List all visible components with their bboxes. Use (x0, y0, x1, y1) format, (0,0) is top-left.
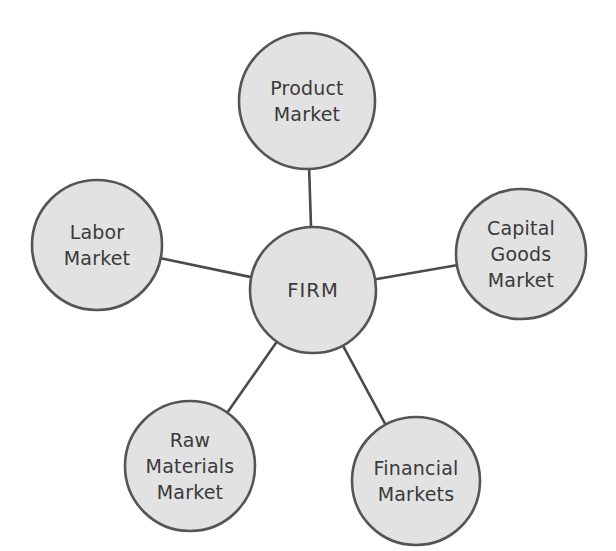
node-financial-markets[interactable]: FinancialMarkets (352, 417, 480, 545)
raw-materials-market-label-line-3: Market (157, 481, 224, 503)
product-market-circle[interactable] (239, 33, 375, 169)
product-market-label-line-1: Product (270, 77, 344, 99)
nodes-layer: ProductMarketLaborMarketCapitalGoodsMark… (32, 33, 586, 545)
node-capital-goods-market[interactable]: CapitalGoodsMarket (456, 189, 586, 319)
financial-markets-label-line-2: Markets (378, 483, 455, 505)
edge-firm-raw-materials-market (227, 341, 278, 414)
firm-label: FIRM (287, 279, 339, 302)
edge-firm-financial-markets (342, 345, 386, 426)
raw-materials-market-label-line-1: Raw (170, 429, 211, 451)
financial-markets-label-line-1: Financial (374, 457, 459, 479)
node-labor-market[interactable]: LaborMarket (32, 180, 162, 310)
labor-market-label-line-2: Market (64, 247, 131, 269)
product-market-label-line-2: Market (274, 103, 341, 125)
capital-goods-market-label-line-2: Goods (491, 243, 552, 265)
capital-goods-market-label-line-3: Market (488, 269, 555, 291)
labor-market-circle[interactable] (32, 180, 162, 310)
edge-firm-product-market (309, 168, 311, 228)
firm-markets-diagram: ProductMarketLaborMarketCapitalGoodsMark… (0, 0, 616, 551)
raw-materials-market-label-line-2: Materials (146, 455, 235, 477)
node-firm[interactable]: FIRM (250, 227, 376, 353)
labor-market-label-line-1: Labor (70, 221, 125, 243)
edge-firm-labor-market (160, 258, 253, 277)
financial-markets-circle[interactable] (352, 417, 480, 545)
edge-firm-capital-goods-market (374, 265, 458, 280)
node-raw-materials-market[interactable]: RawMaterialsMarket (125, 401, 255, 531)
capital-goods-market-label-line-1: Capital (487, 217, 555, 239)
node-product-market[interactable]: ProductMarket (239, 33, 375, 169)
firm-label-line-1: FIRM (287, 279, 339, 302)
diagram-canvas: ProductMarketLaborMarketCapitalGoodsMark… (0, 0, 616, 551)
capital-goods-market-label: CapitalGoodsMarket (487, 217, 555, 291)
